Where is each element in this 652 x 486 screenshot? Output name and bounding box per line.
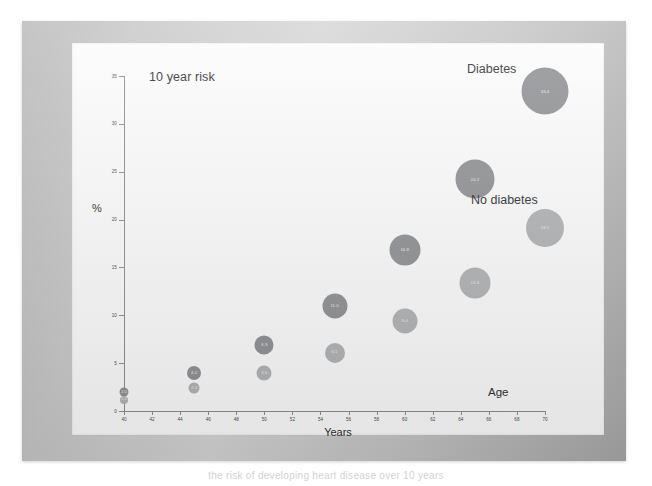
y-tick-label: 25 (97, 169, 117, 174)
y-tick (119, 220, 124, 221)
x-tick-label: 44 (170, 417, 190, 422)
bubble-value-label: 33.4 (541, 89, 550, 93)
bubble-value-label: 4.0 (191, 371, 197, 375)
y-tick-label: 5 (97, 361, 117, 366)
x-tick (405, 411, 406, 415)
series-label-diabetes: Diabetes (467, 62, 516, 76)
x-tick (292, 411, 293, 415)
bubble-value-label: 2.4 (191, 386, 197, 390)
figure-frame: 05101520253035 4042444648505254565860626… (22, 21, 626, 461)
y-tick (119, 315, 124, 316)
screenshot-root: 05101520253035 4042444648505254565860626… (0, 0, 652, 486)
y-tick (119, 363, 124, 364)
x-tick (433, 411, 434, 415)
bubble-no-diabetes-age-45: 2.4 (189, 383, 200, 394)
x-tick-label: 66 (479, 417, 499, 422)
bubble-no-diabetes-age-40: 1.2 (120, 396, 128, 404)
y-tick-label: 35 (97, 74, 117, 79)
y-tick (119, 172, 124, 173)
bubble-value-label: 19.1 (541, 226, 550, 230)
x-tick (545, 411, 546, 415)
bubble-value-label: 2.0 (121, 390, 127, 394)
y-axis-line (124, 76, 125, 412)
x-tick-label: 46 (198, 417, 218, 422)
y-tick (119, 267, 124, 268)
y-tick (119, 76, 124, 77)
chart-canvas: 05101520253035 4042444648505254565860626… (72, 43, 604, 435)
x-tick (124, 411, 125, 415)
bubble-value-label: 9.4 (402, 319, 408, 323)
bubble-value-label: 16.8 (400, 248, 409, 252)
series-label-no-diabetes: No diabetes (471, 193, 538, 207)
x-tick (517, 411, 518, 415)
x-tick-label: 54 (310, 417, 330, 422)
x-tick-label: 50 (254, 417, 274, 422)
x-tick-label: 58 (367, 417, 387, 422)
bubble-value-label: 13.4 (471, 281, 480, 285)
bubble-diabetes-age-60: 16.8 (389, 235, 420, 266)
bubble-diabetes-age-45: 4.0 (187, 366, 201, 380)
x-tick (489, 411, 490, 415)
x-tick (208, 411, 209, 415)
y-tick-label: 20 (97, 217, 117, 222)
x-tick-label: 70 (535, 417, 555, 422)
bubble-value-label: 1.2 (121, 397, 127, 401)
bubble-no-diabetes-age-70: 19.1 (526, 209, 564, 247)
y-tick-label: 10 (97, 313, 117, 318)
x-axis-line (124, 411, 546, 412)
bubble-value-label: 6.1 (331, 350, 337, 354)
y-tick-label: 15 (97, 265, 117, 270)
x-tick-label: 56 (339, 417, 359, 422)
bubble-no-diabetes-age-55: 6.1 (325, 343, 345, 363)
x-tick-label: 42 (142, 417, 162, 422)
x-tick (461, 411, 462, 415)
chart-title: 10 year risk (149, 70, 215, 84)
x-tick-label: 62 (423, 417, 443, 422)
y-tick-label: 30 (97, 121, 117, 126)
plot-area: 05101520253035 4042444648505254565860626… (72, 43, 604, 435)
x-tick-label: 64 (451, 417, 471, 422)
x-tick (236, 411, 237, 415)
bubble-diabetes-age-70: 33.4 (522, 68, 569, 115)
x-tick-label: 68 (507, 417, 527, 422)
bubble-value-label: 24.2 (471, 177, 480, 181)
bubble-no-diabetes-age-50: 4.0 (257, 365, 272, 380)
x-tick-label: 52 (282, 417, 302, 422)
bubble-diabetes-age-55: 11.0 (322, 293, 347, 318)
age-annotation: Age (488, 386, 508, 398)
x-tick (349, 411, 350, 415)
bubble-value-label: 11.0 (330, 304, 338, 308)
x-tick (180, 411, 181, 415)
x-tick-label: 40 (114, 417, 134, 422)
y-tick-label: 0 (97, 409, 117, 414)
x-tick (152, 411, 153, 415)
x-axis-label: Years (72, 426, 604, 438)
x-tick (320, 411, 321, 415)
x-tick-label: 48 (226, 417, 246, 422)
y-tick (119, 124, 124, 125)
x-tick (377, 411, 378, 415)
x-tick-label: 60 (395, 417, 415, 422)
caption-partial: the risk of developing heart disease ove… (0, 470, 652, 486)
bubble-value-label: 4.0 (261, 371, 267, 375)
bubble-no-diabetes-age-60: 9.4 (392, 309, 417, 334)
x-tick (264, 411, 265, 415)
bubble-value-label: 6.9 (261, 343, 267, 347)
bubble-no-diabetes-age-65: 13.4 (459, 267, 490, 298)
y-axis-label: % (92, 202, 102, 214)
bubble-diabetes-age-50: 6.9 (255, 335, 274, 354)
